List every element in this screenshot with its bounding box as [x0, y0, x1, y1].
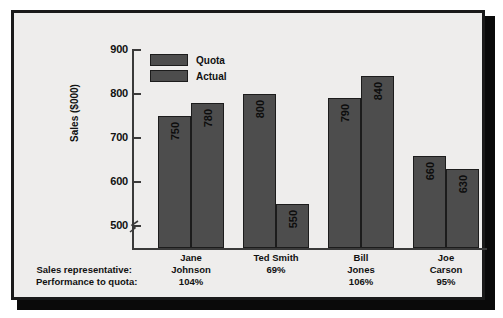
footer-category-columns: Jane Johnson 104% Ted Smith 69% Bill Jon…	[132, 252, 487, 302]
bar-value-label: 550	[287, 210, 299, 228]
bar-value-label: 780	[202, 109, 214, 127]
y-axis-title: Sales ($000)	[69, 84, 80, 142]
category-column-bill-jones: Bill Jones 106%	[328, 252, 394, 288]
bar-quota-bill-jones[interactable]: 790	[328, 98, 361, 248]
chart-frame: Sales ($000) 900 800 700 600 500	[11, 10, 485, 300]
bar-quota-jane-johnson[interactable]: 750	[158, 116, 191, 248]
y-tick-label-900: 900	[110, 43, 128, 55]
legend-swatch-icon	[150, 70, 188, 82]
y-tick-600	[134, 181, 141, 183]
legend: Quota Actual	[150, 53, 260, 85]
y-tick-800	[134, 93, 141, 95]
bar-value-label: 750	[169, 122, 181, 140]
label-sales-representative: Sales representative:	[36, 264, 132, 276]
y-tick-label-700: 700	[110, 131, 128, 143]
bar-value-label: 840	[372, 82, 384, 100]
bar-value-label: 660	[424, 162, 436, 180]
bar-value-label: 800	[254, 100, 266, 118]
bar-value-label: 790	[339, 104, 351, 122]
y-tick-700	[134, 137, 141, 139]
category-column-ted-smith: Ted Smith 69%	[243, 252, 309, 276]
category-performance-pct: 106%	[328, 276, 394, 288]
y-tick-label-800: 800	[110, 87, 128, 99]
bar-actual-bill-jones[interactable]: 840	[361, 76, 394, 248]
legend-label: Quota	[196, 55, 225, 66]
bar-actual-ted-smith[interactable]: 550	[276, 204, 309, 248]
category-name-line1: Joe	[413, 252, 479, 264]
category-performance-pct: 104%	[158, 276, 224, 288]
bar-actual-joe-carson[interactable]: 630	[446, 169, 479, 248]
category-name-line1: Bill	[328, 252, 394, 264]
category-name-line2: Jones	[328, 264, 394, 276]
chart-screenshot: Sales ($000) 900 800 700 600 500	[0, 0, 503, 318]
category-name-line2: Johnson	[158, 264, 224, 276]
legend-swatch-icon	[150, 54, 188, 66]
category-name-line1: Jane	[158, 252, 224, 264]
category-column-joe-carson: Joe Carson 95%	[413, 252, 479, 288]
bar-actual-jane-johnson[interactable]: 780	[191, 103, 224, 248]
axis-break-icon	[127, 219, 143, 235]
category-column-jane-johnson: Jane Johnson 104%	[158, 252, 224, 288]
y-tick-label-500: 500	[110, 219, 128, 231]
category-name-line1: Ted Smith	[243, 252, 309, 264]
footer-row-labels: Sales representative: Performance to quo…	[36, 264, 132, 288]
bar-quota-ted-smith[interactable]: 800	[243, 94, 276, 248]
y-axis-tick-labels: 900 800 700 600 500	[92, 49, 128, 249]
y-tick-label-600: 600	[110, 175, 128, 187]
x-axis-line	[132, 248, 487, 250]
y-tick-900	[134, 49, 141, 51]
category-performance-pct: 95%	[413, 276, 479, 288]
chart-panel: Sales ($000) 900 800 700 600 500	[14, 13, 482, 297]
category-performance-pct: 69%	[243, 264, 309, 276]
legend-item-actual[interactable]: Actual	[150, 69, 260, 83]
legend-label: Actual	[196, 71, 227, 82]
label-performance-to-quota: Performance to quota:	[36, 276, 132, 288]
legend-item-quota[interactable]: Quota	[150, 53, 260, 67]
category-name-line2: Carson	[413, 264, 479, 276]
bar-quota-joe-carson[interactable]: 660	[413, 156, 446, 248]
bar-value-label: 630	[457, 175, 469, 193]
